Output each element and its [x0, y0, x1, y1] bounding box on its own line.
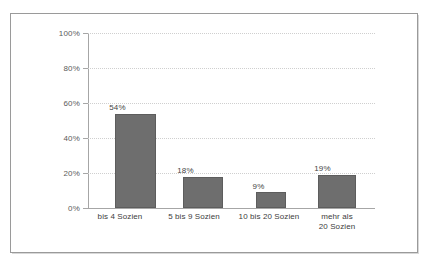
bar-chart: 100% 80% 60% 40% 20% 0%	[0, 0, 430, 266]
gridline-80	[88, 68, 375, 69]
y-tick-label-text: 0%	[40, 204, 80, 213]
y-tick-label-40: 40%	[38, 134, 80, 144]
category-label-5-bis-9-sozien: 5 bis 9 Sozien	[158, 212, 230, 222]
bar-value-5-bis-9-sozien: 18%	[163, 166, 208, 175]
gridline-baseline	[88, 208, 375, 209]
y-tick-label-text: 20%	[40, 169, 80, 178]
bar-10-bis-20-sozien[interactable]	[256, 192, 286, 208]
bar-mehr-als-20-sozien[interactable]	[318, 175, 356, 208]
y-tick-label-60: 60%	[38, 99, 80, 109]
bar-value-10-bis-20-sozien: 9%	[241, 182, 276, 191]
y-tick-label-100: 100%	[38, 29, 80, 39]
gridline-100	[88, 33, 375, 34]
bar-5-bis-9-sozien[interactable]	[183, 177, 223, 209]
bar-value-bis-4-sozien: 54%	[95, 103, 140, 112]
y-tick-label-text: 40%	[40, 134, 80, 143]
bar-bis-4-sozien[interactable]	[115, 114, 156, 209]
screenshot-root: 100% 80% 60% 40% 20% 0%	[0, 0, 430, 266]
y-tick-label-0: 0%	[38, 204, 80, 214]
y-tick-label-text: 60%	[40, 99, 80, 108]
y-tick-label-80: 80%	[38, 64, 80, 74]
bar-value-mehr-als-20-sozien: 19%	[300, 164, 345, 173]
category-label-bis-4-sozien: bis 4 Sozien	[85, 212, 155, 222]
category-label-10-bis-20-sozien: 10 bis 20 Sozien	[228, 212, 310, 222]
y-tick-label-text: 80%	[40, 64, 80, 73]
y-tick-label-text: 100%	[40, 29, 80, 38]
plot-area	[88, 33, 375, 208]
category-label-mehr-als-20-sozien: mehr als 20 Sozien	[306, 212, 368, 232]
y-tick-label-20: 20%	[38, 169, 80, 179]
